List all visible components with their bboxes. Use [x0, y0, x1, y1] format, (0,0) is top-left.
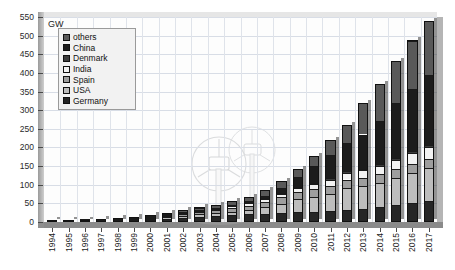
- bar-3d-shade: [401, 58, 404, 219]
- bar-segment-denmark: [162, 214, 172, 215]
- bar-2010[interactable]: [309, 156, 319, 222]
- legend-item-india[interactable]: India: [63, 64, 131, 75]
- bar-1994[interactable]: [47, 220, 57, 222]
- bar-2009[interactable]: [293, 169, 303, 222]
- x-axis-tick-label: 2015: [391, 233, 401, 252]
- bar-2003[interactable]: [194, 207, 204, 222]
- legend-swatch-icon: [63, 76, 70, 83]
- bar-3d-shade: [270, 187, 273, 219]
- legend-item-germany[interactable]: Germany: [63, 96, 131, 107]
- y-axis-tick-label: 200: [0, 142, 34, 152]
- bar-segment-spain: [178, 214, 188, 216]
- bar-segment-usa: [211, 213, 221, 216]
- legend-item-others[interactable]: others: [63, 32, 131, 43]
- gridline-vertical: [159, 17, 160, 222]
- bar-2012[interactable]: [342, 125, 352, 222]
- bar-2000[interactable]: [145, 215, 155, 222]
- bar-segment-india: [309, 184, 319, 189]
- x-axis-tick-mark: [429, 228, 430, 232]
- bar-segment-china: [260, 196, 270, 198]
- x-axis-tick-mark: [249, 228, 250, 232]
- bar-segment-others: [342, 125, 352, 143]
- bar-segment-china: [293, 177, 303, 187]
- chart-legend: othersChinaDenmarkIndiaSpainUSAGermany: [58, 28, 136, 110]
- bar-segment-india: [391, 160, 401, 169]
- bar-segment-usa: [276, 204, 286, 213]
- legend-item-denmark[interactable]: Denmark: [63, 53, 131, 64]
- x-axis-tick-label: 1998: [113, 233, 123, 252]
- bar-2011[interactable]: [325, 140, 335, 222]
- bar-segment-denmark: [358, 169, 368, 171]
- bar-2002[interactable]: [178, 210, 188, 222]
- bar-2017[interactable]: [424, 21, 434, 222]
- gridline-vertical: [208, 17, 209, 222]
- legend-item-usa[interactable]: USA: [63, 85, 131, 96]
- bar-segment-usa: [293, 199, 303, 212]
- bar-segment-india: [358, 170, 368, 178]
- bar-segment-others: [96, 219, 106, 220]
- bar-segment-usa: [358, 186, 368, 209]
- bar-segment-others: [424, 21, 434, 75]
- x-axis-tick-mark: [101, 228, 102, 232]
- bar-segment-germany: [129, 220, 139, 222]
- legend-item-spain[interactable]: Spain: [63, 74, 131, 85]
- x-axis-tick-mark: [134, 228, 135, 232]
- bar-2004[interactable]: [211, 205, 221, 222]
- bar-2005[interactable]: [227, 201, 237, 222]
- bar-segment-china: [276, 188, 286, 193]
- bar-segment-others: [325, 140, 335, 154]
- bar-1996[interactable]: [80, 220, 90, 222]
- bar-segment-usa: [309, 197, 319, 212]
- bar-segment-others: [358, 103, 368, 134]
- gridline-vertical: [404, 17, 405, 222]
- bar-segment-denmark: [244, 202, 254, 203]
- bar-1997[interactable]: [96, 219, 106, 222]
- bar-segment-germany: [211, 216, 221, 222]
- bar-2006[interactable]: [244, 197, 254, 222]
- bar-2007[interactable]: [260, 190, 270, 222]
- bar-segment-denmark: [342, 171, 352, 173]
- bar-3d-shade: [303, 166, 306, 219]
- x-axis-tick-label: 1999: [129, 233, 139, 252]
- y-axis-tick-mark: [38, 17, 43, 18]
- legend-item-china[interactable]: China: [63, 43, 131, 54]
- bar-1998[interactable]: [113, 218, 123, 222]
- bar-1999[interactable]: [129, 217, 139, 222]
- bar-1995[interactable]: [63, 220, 73, 222]
- bar-segment-spain: [309, 189, 319, 197]
- bar-segment-denmark: [227, 205, 237, 206]
- gridline-vertical: [355, 17, 356, 222]
- bar-segment-denmark: [391, 158, 401, 160]
- bar-segment-germany: [358, 209, 368, 222]
- gridline-vertical: [241, 17, 242, 222]
- bar-2015[interactable]: [391, 61, 401, 222]
- bar-segment-others: [309, 156, 319, 167]
- y-axis-tick-label: 300: [0, 105, 34, 115]
- bar-2013[interactable]: [358, 103, 368, 222]
- gridline-vertical: [224, 17, 225, 222]
- bar-3d-shade: [156, 212, 159, 219]
- bar-segment-others: [227, 201, 237, 205]
- x-axis-tick-mark: [331, 228, 332, 232]
- gridline-vertical: [175, 17, 176, 222]
- bar-segment-spain: [358, 178, 368, 187]
- bar-2016[interactable]: [407, 40, 417, 222]
- legend-swatch-icon: [63, 34, 70, 41]
- x-axis-tick-mark: [314, 228, 315, 232]
- bar-2008[interactable]: [276, 181, 286, 222]
- bar-3d-shade: [188, 207, 191, 219]
- bar-segment-germany: [162, 219, 172, 222]
- x-axis-tick-mark: [69, 228, 70, 232]
- bar-3d-shade: [57, 217, 60, 219]
- bar-segment-denmark: [407, 151, 417, 153]
- bar-2001[interactable]: [162, 213, 172, 222]
- x-axis-tick-label: 2001: [162, 233, 172, 252]
- bar-segment-usa: [162, 217, 172, 219]
- bar-segment-others: [244, 197, 254, 201]
- x-axis-tick-mark: [118, 228, 119, 232]
- bar-2014[interactable]: [375, 84, 385, 222]
- bar-segment-others: [145, 215, 155, 216]
- x-axis-tick-label: 2017: [424, 233, 434, 252]
- bar-3d-shade: [254, 194, 257, 219]
- bar-segment-germany: [227, 215, 237, 222]
